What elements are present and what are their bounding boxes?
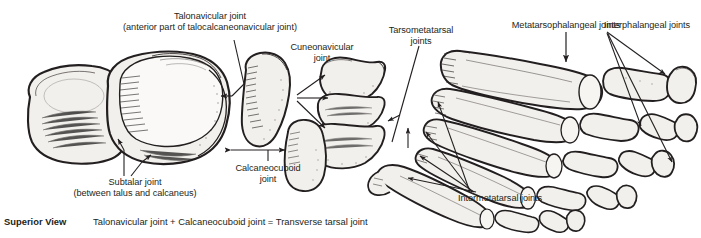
distal-phalanx-1-bone xyxy=(667,67,696,103)
label-tarsometatarsal-line2: joints xyxy=(378,36,464,47)
middle-phalanx-3-bone xyxy=(619,151,656,176)
view-caption: Superior View xyxy=(4,216,66,227)
label-interphalangeal-joints: Interphalangeal joints xyxy=(593,20,701,31)
transverse-tarsal-equation-caption: Talonavicular joint + Calcaneocuboid joi… xyxy=(93,216,368,227)
proximal-phalanx-3-bone xyxy=(563,152,618,178)
navicular-bone xyxy=(242,52,290,146)
label-tarsometatarsal-line1: Tarsometatarsal xyxy=(378,25,464,36)
label-cuneonavicular-line1: Cuneonavicular xyxy=(276,42,368,53)
label-subtalar-line2: (between talus and calcaneus) xyxy=(42,188,228,199)
middle-phalanx-4-bone xyxy=(587,186,620,209)
label-calcaneocuboid-line2: joint xyxy=(222,174,314,185)
label-intermetatarsal-text: Intermetatarsal joints xyxy=(437,193,563,204)
label-subtalar-line1: Subtalar joint xyxy=(42,177,228,188)
label-cuneonavicular-joint: Cuneonavicular joint xyxy=(276,42,368,63)
distal-phalanx-4-bone xyxy=(617,185,637,208)
distal-phalanx-5-bone xyxy=(567,210,585,231)
label-cuneonavicular-line2: joint xyxy=(276,53,368,64)
label-talonavicular-joint: Talonavicular joint (anterior part of ta… xyxy=(103,11,317,32)
tarsometatarsal-leader-line xyxy=(388,46,419,148)
label-talonavicular-line2: (anterior part of talocalcaneonavicular … xyxy=(103,22,317,33)
distal-phalanx-3-bone xyxy=(652,151,674,177)
proximal-phalanx-1-bone xyxy=(603,68,671,101)
proximal-phalanx-2-bone xyxy=(580,114,639,141)
calcaneocuboid-double-arrow xyxy=(231,150,285,161)
proximal-phalanx-5-bone xyxy=(495,211,539,233)
label-tarsometatarsal-joints: Tarsometatarsal joints xyxy=(378,25,464,46)
distal-phalanx-2-bone xyxy=(675,114,697,141)
talus-bone xyxy=(107,52,229,165)
label-calcaneocuboid-line1: Calcaneocuboid xyxy=(222,163,314,174)
label-calcaneocuboid-joint: Calcaneocuboid joint xyxy=(222,163,314,184)
foot-skeleton-illustration xyxy=(0,0,701,238)
label-interphalangeal-text: Interphalangeal joints xyxy=(593,20,701,31)
label-subtalar-joint: Subtalar joint (between talus and calcan… xyxy=(42,177,228,198)
label-intermetatarsal-joints: Intermetatarsal joints xyxy=(437,193,563,204)
middle-phalanx-5-bone xyxy=(540,211,569,233)
anatomy-figure-superior-view-foot-joints: Talonavicular joint (anterior part of ta… xyxy=(0,0,701,238)
label-talonavicular-line1: Talonavicular joint xyxy=(103,11,317,22)
